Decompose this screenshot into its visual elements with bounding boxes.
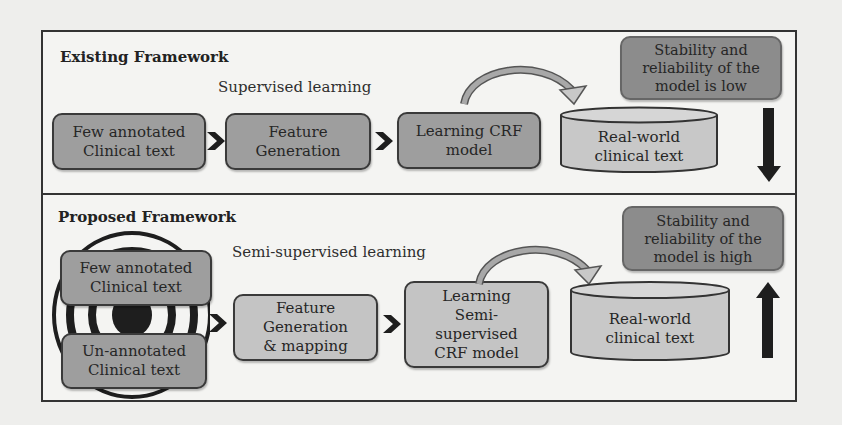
step-label: Feature Generation & mapping xyxy=(263,299,348,356)
section-divider xyxy=(41,193,797,195)
curved-arrow-icon xyxy=(460,60,590,106)
dataset-cylinder-existing: Real-world clinical text xyxy=(559,106,719,174)
chevron-right-icon xyxy=(373,130,395,152)
proposed-step-feature-mapping: Feature Generation & mapping xyxy=(233,294,378,361)
existing-step-annotated-text: Few annotated Clinical text xyxy=(52,113,206,170)
proposed-step-learning-semi-crf: Learning Semi- supervised CRF model xyxy=(404,281,549,368)
input-label: Few annotated Clinical text xyxy=(80,259,193,297)
input-label: Un-annotated Clinical text xyxy=(82,342,186,380)
arrow-down-icon xyxy=(756,108,782,184)
arrow-up-icon xyxy=(755,282,781,360)
chevron-right-icon xyxy=(381,313,403,335)
dataset-label: Real-world clinical text xyxy=(559,128,719,166)
step-label: Learning Semi- supervised CRF model xyxy=(434,287,518,363)
existing-step-learning-crf: Learning CRF model xyxy=(397,112,541,169)
existing-framework-title: Existing Framework xyxy=(60,48,228,66)
step-label: Learning CRF model xyxy=(416,122,523,160)
outcome-label: Stability and reliability of the model i… xyxy=(642,41,760,95)
semi-supervised-learning-caption: Semi-supervised learning xyxy=(232,243,426,261)
input-unannotated-text: Un-annotated Clinical text xyxy=(61,333,207,389)
supervised-learning-caption: Supervised learning xyxy=(218,78,371,96)
input-few-annotated-text: Few annotated Clinical text xyxy=(60,250,212,306)
chevron-right-icon xyxy=(205,130,227,152)
outcome-label: Stability and reliability of the model i… xyxy=(644,212,762,266)
chevron-right-icon xyxy=(207,312,229,334)
outcome-high-box: Stability and reliability of the model i… xyxy=(622,206,784,271)
step-label: Few annotated Clinical text xyxy=(73,123,186,161)
existing-step-feature-generation: Feature Generation xyxy=(225,113,371,170)
dataset-label: Real-world clinical text xyxy=(569,310,731,348)
outcome-low-box: Stability and reliability of the model i… xyxy=(620,36,782,100)
dataset-cylinder-proposed: Real-world clinical text xyxy=(569,280,731,362)
step-label: Feature Generation xyxy=(255,123,340,161)
proposed-framework-title: Proposed Framework xyxy=(58,208,236,226)
